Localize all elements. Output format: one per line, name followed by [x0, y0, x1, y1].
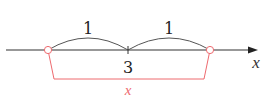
number-line-diagram: x 1 1 3 x — [0, 0, 263, 105]
axis-label: x — [251, 53, 260, 72]
left-arc — [48, 38, 128, 50]
right-point-circle — [206, 46, 213, 53]
left-arc-label: 1 — [83, 19, 93, 38]
center-label: 3 — [123, 58, 133, 77]
right-arc-label: 1 — [164, 19, 174, 38]
right-arc — [128, 38, 210, 50]
left-point-circle — [44, 46, 51, 53]
bracket-label: x — [124, 82, 132, 98]
